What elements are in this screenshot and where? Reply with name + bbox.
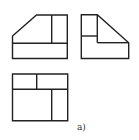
front-view-outline [13,15,68,59]
top-view [13,74,68,121]
side-view [81,15,128,59]
figure-caption: a) [77,122,86,133]
top-view-outline [13,74,68,121]
front-view [13,15,68,59]
projection-drawing [0,0,139,140]
